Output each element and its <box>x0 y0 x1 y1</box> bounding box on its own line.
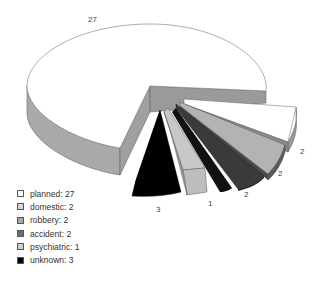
label-psychiatric: 1 <box>208 199 212 208</box>
legend-item-accident: accident: 2 <box>17 227 80 240</box>
legend-swatch <box>17 230 24 237</box>
legend-item-planned: planned: 27 <box>17 187 80 200</box>
label-unknown: 3 <box>156 205 160 214</box>
label-planned: 27 <box>88 15 97 24</box>
legend-item-robbery: robbery: 2 <box>17 214 80 227</box>
label-robbery: 2 <box>278 169 282 178</box>
legend-label: unknown: 3 <box>30 255 73 265</box>
label-domestic: 2 <box>300 147 304 156</box>
legend-item-psychiatric: psychiatric: 1 <box>17 240 80 253</box>
legend-item-domestic: domestic: 2 <box>17 200 80 213</box>
legend-label: domestic: 2 <box>30 202 73 212</box>
label-accident: 2 <box>244 190 248 199</box>
legend-label: accident: 2 <box>30 229 71 239</box>
legend-label: planned: 27 <box>30 189 74 199</box>
legend-swatch <box>17 203 24 210</box>
legend-label: psychiatric: 1 <box>30 242 80 252</box>
legend: planned: 27 domestic: 2 robbery: 2 accid… <box>17 187 80 267</box>
legend-label: robbery: 2 <box>30 215 68 225</box>
legend-item-unknown: unknown: 3 <box>17 253 80 266</box>
legend-swatch <box>17 243 24 250</box>
legend-swatch <box>17 190 24 197</box>
legend-swatch <box>17 257 24 264</box>
legend-swatch <box>17 217 24 224</box>
